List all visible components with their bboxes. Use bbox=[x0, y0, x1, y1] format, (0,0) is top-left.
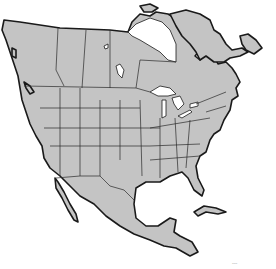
arctic-island bbox=[140, 4, 158, 12]
cuba bbox=[194, 206, 226, 216]
haida-gwaii bbox=[12, 48, 16, 58]
north-america-map bbox=[0, 0, 276, 269]
map-credit: ~~~ bbox=[232, 262, 237, 266]
lake-michigan bbox=[162, 100, 166, 118]
